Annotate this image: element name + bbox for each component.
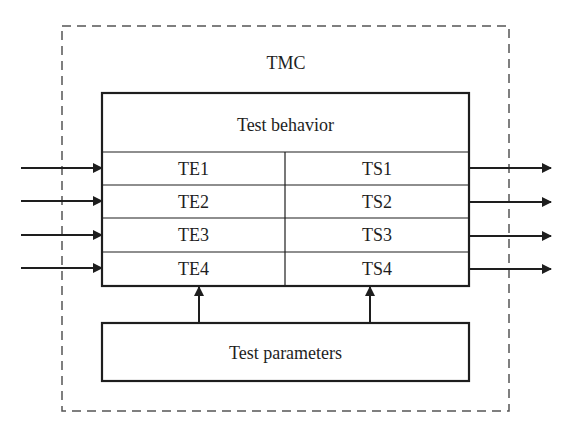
parameter-arrows — [199, 287, 370, 323]
test-parameters-label: Test parameters — [102, 343, 469, 363]
te4-cell: TE4 — [102, 259, 285, 279]
test-behavior-title: Test behavior — [102, 115, 469, 135]
ts1-cell: TS1 — [285, 159, 469, 179]
te2-cell: TE2 — [102, 192, 285, 212]
ts4-cell: TS4 — [285, 259, 469, 279]
te3-cell: TE3 — [102, 225, 285, 245]
tmc-label: TMC — [236, 53, 336, 73]
output-arrows — [469, 168, 551, 269]
ts3-cell: TS3 — [285, 225, 469, 245]
ts2-cell: TS2 — [285, 192, 469, 212]
te1-cell: TE1 — [102, 159, 285, 179]
